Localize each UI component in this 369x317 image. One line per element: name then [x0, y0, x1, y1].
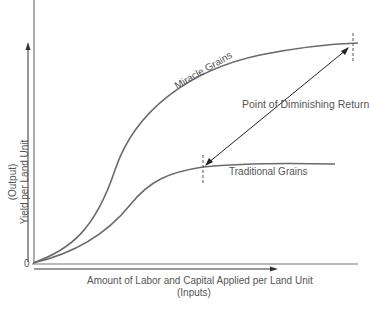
- origin-label: 0: [24, 258, 30, 269]
- y-axis-label: (Output) Yield per Land Unit: [7, 127, 31, 237]
- arrowhead-to-traditional-icon: [205, 158, 213, 166]
- y-axis-sublabel: (Output): [7, 127, 19, 237]
- diminishing-return-label: Point of Diminishing Return: [242, 98, 369, 110]
- arrowhead-to-miracle-icon: [341, 47, 349, 55]
- traditional-grains-curve: [33, 163, 335, 263]
- traditional-grains-label: Traditional Grains: [229, 166, 308, 177]
- x-axis-sublabel: (Inputs): [177, 287, 211, 298]
- x-axis-arrowhead-icon: [270, 267, 278, 272]
- y-axis-arrowhead-icon: [26, 42, 31, 50]
- y-axis-title: Yield per Land Unit: [19, 127, 31, 237]
- x-axis-title: Amount of Labor and Capital Applied per …: [87, 275, 313, 286]
